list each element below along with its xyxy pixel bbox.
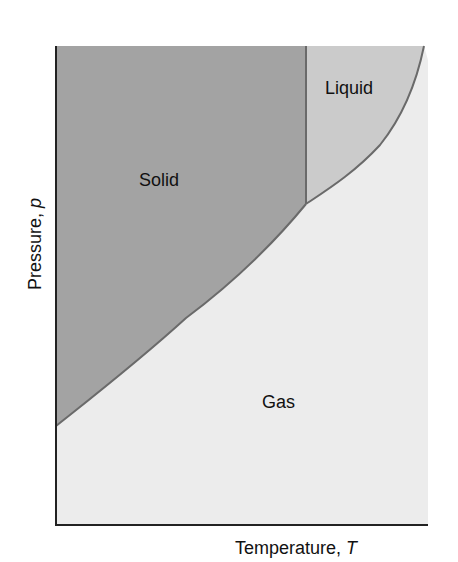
y-axis-symbol: p: [25, 198, 45, 208]
x-axis-label-text: Temperature,: [235, 538, 346, 558]
gas-label: Gas: [262, 392, 295, 413]
solid-label: Solid: [139, 170, 179, 191]
x-axis-label: Temperature, T: [235, 538, 357, 559]
y-axis-label-text: Pressure,: [25, 208, 45, 290]
y-axis-label: Pressure, p: [25, 198, 46, 290]
liquid-label: Liquid: [325, 78, 373, 99]
phase-diagram: [0, 0, 458, 562]
x-axis-symbol: T: [346, 538, 357, 558]
